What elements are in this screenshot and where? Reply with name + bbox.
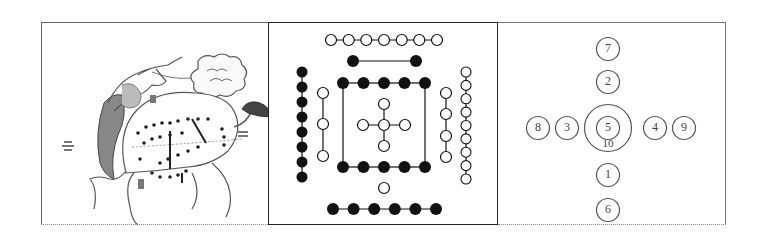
numbered-circles-panel: 7 2 5 10 8 3 4 9 1 6 <box>498 22 726 225</box>
dragon-horse-illustration <box>42 23 269 226</box>
num-7: 7 <box>602 41 614 56</box>
num-6: 6 <box>602 202 614 217</box>
he-tu-dot-diagram <box>269 23 499 226</box>
top-white-dots <box>326 35 443 46</box>
center-white-dots <box>358 99 411 152</box>
num-1: 1 <box>602 167 614 182</box>
far-right-white-dots <box>461 67 471 184</box>
num-2: 2 <box>602 74 614 89</box>
bottom-white-dot <box>379 183 390 194</box>
num-3: 3 <box>561 120 573 135</box>
dragon-horse-panel <box>41 22 268 225</box>
num-4: 4 <box>649 120 661 135</box>
num-9: 9 <box>678 120 690 135</box>
num-8: 8 <box>532 120 544 135</box>
he-tu-panel <box>268 22 498 225</box>
num-5: 5 <box>602 120 614 135</box>
num-10: 10 <box>598 137 618 149</box>
left-white-dots <box>318 88 329 162</box>
